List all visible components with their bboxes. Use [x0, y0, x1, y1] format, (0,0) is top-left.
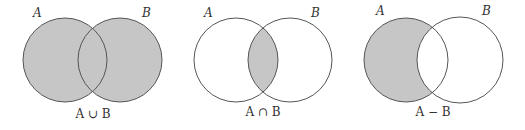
venn-difference: A B A − B [364, 4, 503, 119]
set-b-label: B [141, 6, 151, 20]
set-a-label: A [203, 6, 213, 20]
venn-union: A B A ∪ B [23, 6, 162, 121]
caption-difference: A − B [414, 105, 450, 119]
caption-union: A ∪ B [74, 107, 110, 121]
set-b-label: B [310, 6, 320, 20]
venn-diagrams-figure: A B A ∪ B A B A ∩ B A B A − B [0, 0, 525, 130]
set-a-label: A [375, 4, 385, 18]
caption-intersection: A ∩ B [244, 105, 280, 119]
venn-intersection: A B A ∩ B [194, 6, 332, 119]
set-b-label: B [481, 4, 491, 18]
set-a-label: A [32, 6, 42, 20]
